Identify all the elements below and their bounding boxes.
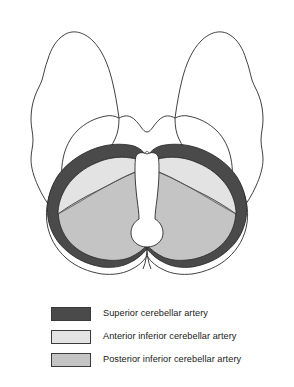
brain-anatomy-diagram	[0, 0, 294, 300]
legend-swatch-aica	[51, 330, 91, 344]
legend-swatch-pica	[51, 353, 91, 367]
legend-label-aica: Anterior inferior cerebellar artery	[103, 331, 237, 342]
legend-item-sca: Superior cerebellar artery	[51, 306, 208, 321]
legend-label-sca: Superior cerebellar artery	[103, 308, 208, 319]
legend-item-aica: Anterior inferior cerebellar artery	[51, 329, 237, 344]
legend-item-pica: Posterior inferior cerebellar artery	[51, 352, 241, 367]
legend-swatch-sca	[51, 307, 91, 321]
legend-label-pica: Posterior inferior cerebellar artery	[103, 354, 241, 365]
cerebellar-artery-figure: Superior cerebellar artery Anterior infe…	[0, 0, 294, 387]
legend: Superior cerebellar artery Anterior infe…	[0, 300, 294, 387]
